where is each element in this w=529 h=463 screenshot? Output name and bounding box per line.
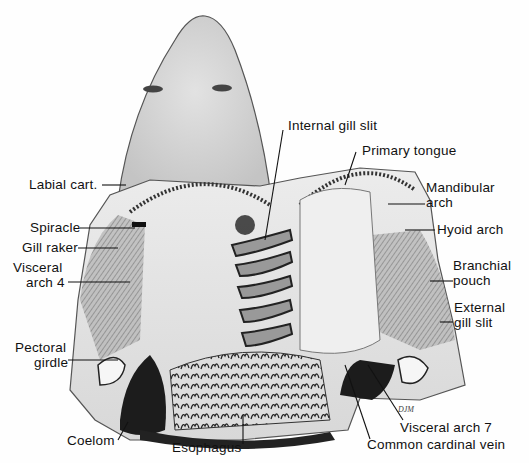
label-esophagus: Esophagus <box>172 440 241 455</box>
label-labial-cartilage: Labial cart. <box>29 177 97 192</box>
svg-text:DJM: DJM <box>397 405 415 414</box>
pharynx-body: DJM <box>70 168 465 449</box>
nostril-left <box>143 86 163 93</box>
anatomical-figure: DJM Labial cart. Spiracle Gill raker Vis… <box>0 0 529 463</box>
label-visceral-arch-7: Visceral arch 7 <box>400 420 492 435</box>
label-branchial-pouch: Branchial pouch <box>453 258 511 288</box>
label-primary-tongue: Primary tongue <box>362 143 456 158</box>
label-spiracle: Spiracle <box>30 220 80 235</box>
label-external-gill-slit: External gill slit <box>454 300 505 330</box>
label-visceral-arch-4: Visceral arch 4 <box>13 260 65 290</box>
label-mandibular-arch: Mandibular arch <box>426 180 495 210</box>
snout <box>118 16 272 205</box>
label-coelom: Coelom <box>67 433 115 448</box>
label-gill-raker: Gill raker <box>22 240 78 255</box>
label-pectoral-girdle: Pectoral girdle <box>15 340 68 370</box>
label-common-cardinal-vein: Common cardinal vein <box>367 437 505 452</box>
label-internal-gill-slit: Internal gill slit <box>288 118 377 133</box>
label-hyoid-arch: Hyoid arch <box>437 222 504 237</box>
nostril-right <box>212 85 232 92</box>
